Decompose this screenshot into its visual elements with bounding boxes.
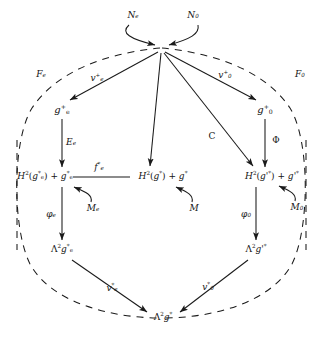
node-g-e-plus: g+e bbox=[54, 105, 69, 115]
node-lambda2-gprime: Λ2g'* bbox=[245, 245, 266, 254]
node-lambda2-g: Λ2g* bbox=[154, 313, 173, 322]
edge-ve-plus bbox=[70, 52, 158, 100]
label-ve-plus: v+e bbox=[90, 74, 103, 83]
edge-Me bbox=[74, 187, 91, 202]
edge-apex-center bbox=[150, 53, 161, 166]
label-Phi: Φ bbox=[272, 136, 279, 145]
label-N0: N0 bbox=[187, 11, 198, 20]
label-region-Fe: Fe bbox=[36, 70, 46, 79]
diagram-canvas: g+e g+0 H2(g*e) + g*e H2(g*) + g* H2(g'*… bbox=[0, 0, 324, 340]
label-M0: M0 bbox=[291, 203, 304, 212]
node-lambda2-ge: Λ2g*e bbox=[51, 245, 73, 254]
node-H2-gprime: H2(g'*) + g'* bbox=[245, 172, 299, 181]
label-Me: Me bbox=[87, 204, 100, 213]
label-v0-star: v*0 bbox=[202, 283, 213, 292]
edge-v0-plus bbox=[165, 52, 256, 100]
label-ve-star: v*e bbox=[106, 284, 117, 293]
edge-v0-star bbox=[180, 260, 248, 312]
label-Ee: Ee bbox=[66, 138, 76, 147]
label-phi-e: φe bbox=[46, 210, 56, 219]
node-H2-ge: H2(g*e) + g*e bbox=[17, 172, 72, 181]
label-fe-star: f*e bbox=[94, 163, 103, 172]
label-v0-plus: v+0 bbox=[218, 71, 231, 80]
edge-Ne bbox=[126, 25, 155, 45]
node-g-0-plus: g+0 bbox=[257, 105, 273, 115]
label-C: C bbox=[209, 132, 216, 141]
edge-M bbox=[176, 187, 192, 202]
edge-N0 bbox=[169, 25, 198, 45]
label-phi-0: φ0 bbox=[241, 210, 251, 219]
label-Ne: Ne bbox=[127, 11, 138, 20]
label-region-F0: F0 bbox=[295, 70, 305, 79]
label-M: M bbox=[189, 204, 198, 213]
edge-C bbox=[164, 53, 253, 166]
region-boundary-Fe-outer bbox=[17, 48, 161, 318]
edge-M0 bbox=[279, 186, 295, 201]
node-H2-g: H2(g*) + g* bbox=[139, 172, 188, 181]
